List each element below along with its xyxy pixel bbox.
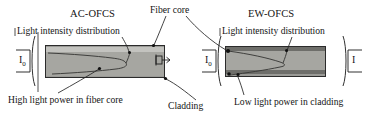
leader-dot-fiber-core xyxy=(152,44,155,47)
intensity-curve-right xyxy=(228,51,285,75)
leader-low-power xyxy=(238,77,244,95)
diagram-vector-overlay xyxy=(0,0,379,120)
leader-dot-intensity-right xyxy=(285,49,288,52)
cladding-marker-bottom-right xyxy=(227,72,231,76)
input-bracket-left xyxy=(16,36,35,86)
leader-fiber-core xyxy=(154,16,166,45)
light-exit-arrow-icon xyxy=(156,55,170,66)
leader-dot-cladding xyxy=(164,77,167,80)
input-bracket-right xyxy=(202,36,221,86)
cladding-marker-bottom-right-2 xyxy=(236,73,239,76)
output-bracket-right xyxy=(343,36,362,86)
cladding-marker-top-right xyxy=(226,49,230,53)
leader-intensity-left xyxy=(122,37,129,52)
fiber-optic-sensor-figure: AC-OFCS Light intensity distribution EW-… xyxy=(0,0,379,120)
leader-cladding xyxy=(166,79,196,100)
intensity-curve-right-tail xyxy=(283,51,287,63)
leader-dot-high-power xyxy=(98,67,101,70)
intensity-curve-left xyxy=(48,53,127,74)
leader-dot-intensity-left xyxy=(128,51,131,54)
leader-intensity-right xyxy=(287,37,292,51)
